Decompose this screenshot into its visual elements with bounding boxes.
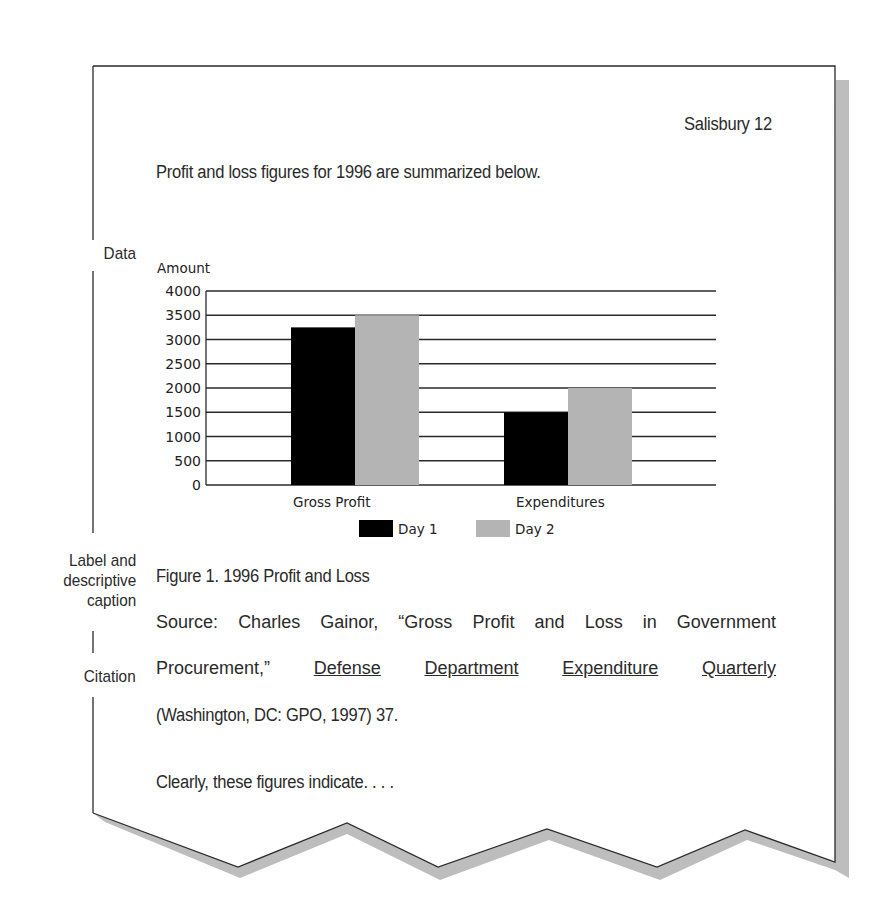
margin-label-citation: Citation [84, 667, 136, 687]
citation-word: Source: [156, 612, 218, 633]
journal-title-word: Expenditure [562, 658, 658, 679]
citation-word: Loss [585, 612, 623, 633]
chart-plot-area [0, 0, 890, 560]
legend-swatch-day1 [359, 520, 393, 537]
legend-label-day2: Day 2 [515, 521, 555, 537]
source-line-1: Source:CharlesGainor,“GrossProfitandLoss… [156, 612, 776, 633]
closing-text: Clearly, these figures indicate. . . . [156, 772, 394, 793]
source-line-2-words: Procurement,”DefenseDepartmentExpenditur… [156, 658, 776, 679]
citation-word: Gainor, [320, 612, 378, 633]
bar [355, 315, 419, 485]
margin-label-caption-line: descriptive [63, 571, 136, 591]
legend-label-day1: Day 1 [398, 521, 438, 537]
bar [504, 412, 568, 485]
x-category-label: Gross Profit [293, 494, 371, 510]
citation-word: “Gross [398, 612, 452, 633]
figure-caption: Figure 1. 1996 Profit and Loss [156, 566, 370, 587]
citation-word: and [535, 612, 565, 633]
bar-chart: Amount 40003500300025002000150010005000 … [0, 0, 890, 560]
margin-label-caption-line: caption [63, 591, 136, 611]
citation-word: Charles [238, 612, 300, 633]
bar [291, 327, 355, 485]
source-line-2: Procurement,”DefenseDepartmentExpenditur… [156, 658, 776, 679]
journal-title-word: Quarterly [702, 658, 776, 679]
journal-title-word: Department [424, 658, 518, 679]
x-category-label: Expenditures [516, 494, 605, 510]
source-line-3: (Washington, DC: GPO, 1997) 37. [156, 705, 398, 726]
source-line-1-words: Source:CharlesGainor,“GrossProfitandLoss… [156, 612, 776, 633]
legend-swatch-day2 [476, 520, 510, 537]
citation-word: Profit [472, 612, 514, 633]
margin-label-caption: Label and descriptive caption [63, 551, 136, 611]
bar [568, 388, 632, 485]
citation-word: Procurement,” [156, 658, 270, 679]
citation-word: in [643, 612, 657, 633]
citation-word: Government [677, 612, 776, 633]
journal-title-word: Defense [314, 658, 381, 679]
